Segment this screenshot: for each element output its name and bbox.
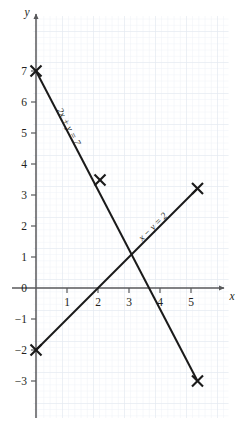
y-tick-label-2: 2 [21, 220, 27, 232]
x-tick-label-3: 3 [126, 296, 132, 308]
major-gridlines [34, 16, 229, 418]
y-tick-label-neg2: −2 [15, 344, 27, 356]
y-tick-label-0: 0 [21, 282, 27, 294]
y-tick-label-neg1: −1 [15, 313, 27, 325]
y-tick-label-5: 5 [21, 127, 27, 139]
y-tick-label-1: 1 [21, 251, 27, 263]
y-axis-tick-labels: −3 −2 −1 0 1 2 3 4 5 6 7 [15, 65, 28, 387]
y-tick-label-7: 7 [21, 65, 27, 77]
x-tick-label-1: 1 [64, 296, 70, 308]
y-tick-label-3: 3 [21, 189, 27, 201]
y-axis-label: y [23, 6, 30, 19]
graph-canvas: 1 2 3 4 5 −3 −2 −1 0 1 2 3 4 5 6 7 x y [0, 0, 243, 429]
y-tick-label-4: 4 [21, 158, 27, 170]
x-tick-label-2: 2 [95, 296, 101, 308]
y-tick-label-neg3: −3 [15, 375, 27, 387]
x-tick-label-5: 5 [188, 296, 194, 308]
grid-layer [34, 16, 229, 418]
x-axis-label: x [228, 290, 235, 302]
y-tick-label-6: 6 [21, 96, 27, 108]
coordinate-graph: 1 2 3 4 5 −3 −2 −1 0 1 2 3 4 5 6 7 x y [0, 0, 243, 429]
